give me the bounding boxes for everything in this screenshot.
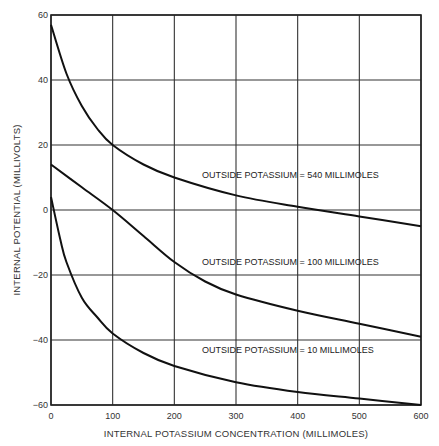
x-tick-label: 100 [105, 411, 120, 421]
y-tick-label: 60 [38, 10, 48, 20]
x-tick-label: 0 [48, 411, 53, 421]
series-annotation: OUTSIDE POTASSIUM = 540 MILLIMOLES [202, 170, 379, 180]
x-tick-label: 400 [290, 411, 305, 421]
y-tick-label: −40 [33, 335, 48, 345]
y-tick-label: 0 [43, 205, 48, 215]
y-tick-labels: 6040200−20−40−60 [33, 10, 48, 410]
x-tick-label: 500 [352, 411, 367, 421]
y-tick-label: −20 [33, 270, 48, 280]
x-axis-title: INTERNAL POTASSIUM CONCENTRATION (MILLIM… [104, 428, 368, 439]
y-tick-label: 40 [38, 75, 48, 85]
y-tick-label: −60 [33, 400, 48, 410]
annotations: OUTSIDE POTASSIUM = 540 MILLIMOLESOUTSID… [202, 170, 379, 356]
y-tick-label: 20 [38, 140, 48, 150]
chart: OUTSIDE POTASSIUM = 540 MILLIMOLESOUTSID… [0, 0, 439, 446]
x-tick-label: 300 [228, 411, 243, 421]
x-tick-label: 600 [413, 411, 428, 421]
y-axis-title: INTERNAL POTENTIAL (MILLIVOLTS) [11, 124, 22, 295]
x-tick-label: 200 [167, 411, 182, 421]
x-tick-labels: 0100200300400500600 [48, 411, 428, 421]
series-annotation: OUTSIDE POTASSIUM = 100 MILLIMOLES [202, 257, 379, 267]
series-annotation: OUTSIDE POTASSIUM = 10 MILLIMOLES [202, 345, 374, 355]
